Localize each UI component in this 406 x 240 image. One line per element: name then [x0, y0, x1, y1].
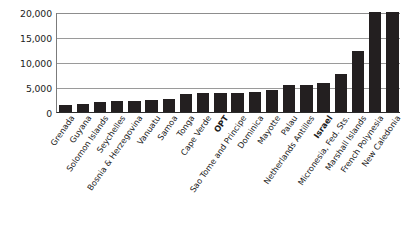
bar-chart: 05,00010,00015,00020,000 GrenadaGuyanaSo… [0, 0, 406, 240]
bar [249, 92, 261, 112]
y-tick-label: 5,000 [0, 83, 52, 94]
bar [59, 105, 71, 113]
bar [300, 85, 312, 113]
bar [111, 101, 123, 112]
y-tick-label: 0 [0, 108, 52, 119]
y-tick-label: 20,000 [0, 8, 52, 19]
plot-area [56, 13, 400, 113]
bar [317, 83, 329, 112]
bar [197, 93, 209, 112]
bar [352, 51, 364, 113]
bar [283, 85, 295, 112]
bar [180, 94, 192, 113]
bar [386, 12, 398, 112]
y-tick-label: 10,000 [0, 58, 52, 69]
bar [163, 99, 175, 112]
bar [128, 101, 140, 113]
bars [57, 13, 400, 112]
bar [266, 90, 278, 112]
bar [231, 93, 243, 113]
bar [94, 102, 106, 113]
bar [214, 93, 226, 112]
x-axis-category-labels: GrenadaGuyanaSolomon IslandsSeychellesBo… [56, 114, 400, 240]
bar [335, 74, 347, 112]
bar [369, 12, 381, 112]
y-tick-label: 15,000 [0, 33, 52, 44]
bar [145, 100, 157, 112]
bar [77, 104, 89, 113]
